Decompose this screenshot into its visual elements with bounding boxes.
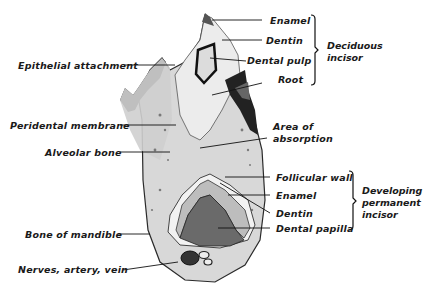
group-developing-permanent-incisor: Developing permanent incisor <box>362 185 422 221</box>
label-epithelial-attachment: Epithelial attachment <box>18 60 138 71</box>
deciduous-bracket <box>311 15 318 85</box>
group-deciduous-incisor: Deciduous incisor <box>327 40 383 64</box>
label-dental-pulp: Dental pulp <box>247 55 311 66</box>
group-permanent-line2: permanent <box>362 197 422 209</box>
label-nerves-artery-vein: Nerves, artery, vein <box>18 264 128 275</box>
label-peridental-membrane: Peridental membrane <box>10 120 130 131</box>
label-permanent-dentin: Dentin <box>276 208 313 219</box>
label-root: Root <box>278 74 303 85</box>
label-follicular-wall: Follicular wall <box>276 172 353 183</box>
diagram-stage: Epithelial attachment Peridental membran… <box>0 0 426 290</box>
label-dental-papilla: Dental papilla <box>276 223 354 234</box>
group-permanent-line1: Developing <box>362 185 422 197</box>
group-deciduous-line1: Deciduous <box>327 40 383 52</box>
group-deciduous-line2: incisor <box>327 52 383 64</box>
label-deciduous-dentin: Dentin <box>266 35 303 46</box>
label-permanent-enamel: Enamel <box>276 190 316 201</box>
nerve-bundle <box>181 251 199 265</box>
label-absorption: absorption <box>273 133 333 144</box>
label-alveolar-bone: Alveolar bone <box>45 147 122 158</box>
label-bone-of-mandible: Bone of mandible <box>25 229 122 240</box>
group-permanent-line3: incisor <box>362 209 422 221</box>
label-area-of: Area of <box>273 121 313 132</box>
label-deciduous-enamel: Enamel <box>270 15 310 26</box>
